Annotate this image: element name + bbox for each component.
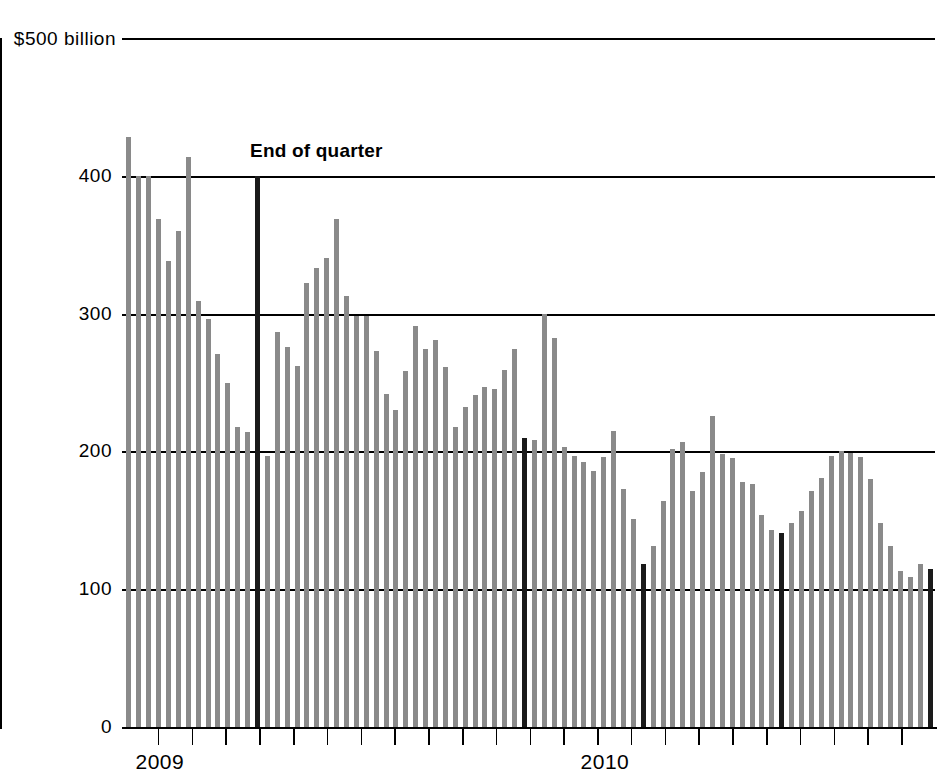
end-of-quarter-bar <box>255 176 260 727</box>
x-tick-label-2009: 2009 <box>136 750 185 774</box>
bar <box>176 231 181 727</box>
plot-top-border <box>122 38 935 40</box>
end-of-quarter-bar <box>641 564 646 727</box>
bar <box>690 491 695 727</box>
bar <box>868 479 873 727</box>
bar <box>661 501 666 727</box>
bar <box>156 219 161 727</box>
bar <box>819 478 824 727</box>
y-axis-line <box>0 38 2 729</box>
bar <box>393 410 398 727</box>
bar <box>285 347 290 727</box>
x-axis-tick <box>563 729 565 745</box>
bar <box>166 261 171 727</box>
bar <box>304 283 309 727</box>
x-axis-tick <box>530 729 532 745</box>
bar <box>413 326 418 727</box>
bar <box>839 451 844 727</box>
x-axis-tick <box>361 729 363 745</box>
bar <box>314 268 319 727</box>
x-axis-tick <box>259 729 261 745</box>
bar <box>225 383 230 728</box>
bar <box>651 546 656 727</box>
bar <box>512 349 517 727</box>
bar <box>235 427 240 727</box>
bar <box>354 316 359 727</box>
bar <box>670 449 675 727</box>
bar <box>265 456 270 727</box>
bar <box>492 389 497 727</box>
x-axis-tick <box>631 729 633 745</box>
x-tick-label-2010: 2010 <box>581 750 630 774</box>
bar <box>482 387 487 727</box>
y-tick-label-0: 0 <box>0 717 112 736</box>
bar <box>186 157 191 727</box>
x-axis-tick <box>800 729 802 745</box>
bar <box>710 416 715 727</box>
bar <box>374 351 379 727</box>
bar <box>324 258 329 727</box>
bar <box>196 301 201 727</box>
bar <box>136 176 141 727</box>
bar <box>146 176 151 727</box>
bar <box>532 440 537 727</box>
bar <box>809 491 814 727</box>
x-axis-tick <box>394 729 396 745</box>
y-tick-label-300: 300 <box>0 304 112 323</box>
bar <box>908 577 913 727</box>
bar <box>740 482 745 727</box>
bar <box>245 432 250 727</box>
bar <box>759 515 764 727</box>
bar <box>423 349 428 727</box>
bar <box>384 394 389 727</box>
end-of-quarter-bar <box>779 533 784 727</box>
x-axis-tick <box>496 729 498 745</box>
x-axis-tick <box>766 729 768 745</box>
gridline-300 <box>122 314 935 316</box>
bar <box>215 354 220 727</box>
bar <box>591 471 596 727</box>
x-axis-tick <box>327 729 329 745</box>
chart-container: $500 billion 400 300 200 100 0 End of qu… <box>0 0 945 783</box>
bar <box>829 456 834 727</box>
bar <box>295 366 300 727</box>
bar <box>848 453 853 727</box>
x-axis-tick <box>428 729 430 745</box>
bar <box>888 546 893 727</box>
bar <box>344 296 349 727</box>
bar <box>552 338 557 727</box>
bar <box>443 367 448 727</box>
x-axis-tick <box>192 729 194 745</box>
x-axis-tick <box>293 729 295 745</box>
bar <box>562 447 567 727</box>
bar <box>502 370 507 727</box>
bar <box>275 332 280 727</box>
bar <box>878 523 883 727</box>
bar <box>581 462 586 727</box>
bar <box>611 431 616 727</box>
bar <box>334 219 339 727</box>
bar <box>918 564 923 727</box>
x-axis-tick <box>867 729 869 745</box>
end-of-quarter-bar <box>522 438 527 727</box>
bar <box>680 442 685 727</box>
bar <box>898 571 903 727</box>
x-axis-tick <box>901 729 903 745</box>
bar <box>453 427 458 727</box>
x-axis-tick <box>732 729 734 745</box>
gridline-400 <box>122 176 935 178</box>
bar <box>572 456 577 727</box>
bar <box>206 319 211 727</box>
bar <box>750 484 755 727</box>
x-axis-tick <box>597 729 599 745</box>
y-tick-label-100: 100 <box>0 579 112 598</box>
y-axis-top-label: $500 billion <box>0 29 116 48</box>
bar <box>858 457 863 727</box>
bar <box>542 314 547 727</box>
bar <box>789 523 794 727</box>
bar <box>473 395 478 727</box>
x-axis-tick <box>665 729 667 745</box>
x-axis-tick <box>462 729 464 745</box>
bar <box>601 457 606 727</box>
bar <box>126 137 131 727</box>
